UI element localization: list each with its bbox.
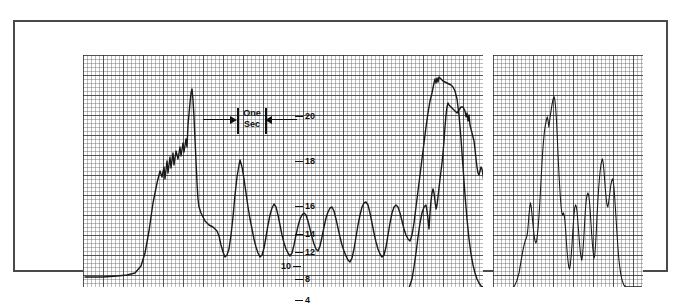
y-axis-tick: 20: [295, 110, 315, 122]
y-axis-tick-label: 8: [305, 275, 310, 284]
y-axis-tick: 18: [295, 155, 315, 167]
one-second-label: One Sec: [240, 108, 264, 130]
tick-dash-icon: [295, 161, 303, 162]
waveform-traces-right: [493, 55, 643, 287]
y-axis-tick: 10: [281, 260, 301, 272]
arrow-shaft: [203, 119, 231, 120]
tick-dash-icon: [293, 266, 301, 267]
y-axis-tick-label: 20: [305, 112, 315, 121]
grid-panel-right: [493, 55, 643, 287]
waveform-trace-burst-3: [495, 97, 642, 287]
figure-outer-frame: One Sec 20181614121084: [13, 20, 668, 272]
tick-dash-icon: [295, 116, 303, 117]
y-axis-tick: 14: [295, 228, 315, 240]
y-axis-tick-label: 10: [281, 262, 291, 271]
interval-tick-left: [237, 108, 239, 134]
y-axis-scale: 20181614121084: [281, 55, 327, 287]
y-axis-tick-label: 14: [305, 230, 315, 239]
one-second-label-line2: Sec: [240, 119, 264, 130]
tick-dash-icon: [295, 300, 303, 301]
tick-dash-icon: [295, 279, 303, 280]
one-second-label-line1: One: [240, 108, 264, 119]
y-axis-tick-label: 12: [305, 248, 315, 257]
tick-dash-icon: [295, 252, 303, 253]
arrow-head: [265, 116, 272, 124]
arrow-head: [230, 116, 237, 124]
y-axis-tick: 16: [295, 200, 315, 212]
y-axis-tick-label: 4: [305, 296, 310, 305]
y-axis-tick: 12: [295, 246, 315, 258]
tick-dash-icon: [295, 234, 303, 235]
y-axis-tick-label: 16: [305, 202, 315, 211]
tick-dash-icon: [295, 206, 303, 207]
y-axis-tick: 8: [295, 273, 310, 285]
y-axis-tick: 4: [295, 294, 310, 306]
one-second-interval-marker: One Sec: [203, 108, 281, 134]
y-axis-tick-label: 18: [305, 157, 315, 166]
waveform-trace-burst-2: [383, 103, 483, 287]
